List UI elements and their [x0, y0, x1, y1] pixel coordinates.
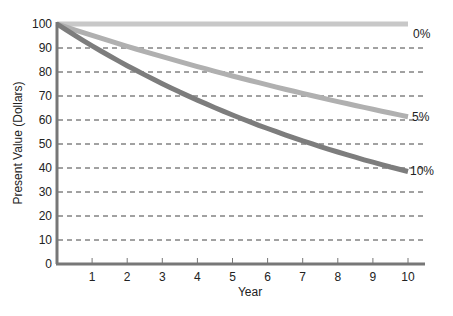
x-tick-label: 4: [194, 270, 201, 284]
series-label: 0%: [413, 27, 431, 41]
present-value-chart: 0102030405060708090100 12345678910 0%5%1…: [0, 0, 453, 316]
y-tick-label: 20: [39, 209, 53, 223]
y-tick-label: 100: [32, 17, 52, 31]
x-tick-label: 7: [299, 270, 306, 284]
series-label: 5%: [412, 110, 430, 124]
x-tick-label: 10: [401, 270, 415, 284]
y-tick-label: 0: [45, 257, 52, 271]
data-series: [57, 24, 408, 172]
x-tick-label: 9: [370, 270, 377, 284]
x-tick-label: 8: [334, 270, 341, 284]
x-tick-label: 1: [89, 270, 96, 284]
x-tick-label: 6: [264, 270, 271, 284]
series-label: 10%: [410, 164, 434, 178]
y-tick-labels: 0102030405060708090100: [32, 17, 52, 271]
series-line-5pct: [57, 24, 408, 117]
x-tick-label: 5: [229, 270, 236, 284]
x-tick-label: 3: [159, 270, 166, 284]
y-tick-label: 50: [39, 137, 53, 151]
y-tick-label: 90: [39, 41, 53, 55]
x-tick-labels: 12345678910: [89, 258, 415, 284]
y-tick-label: 40: [39, 161, 53, 175]
x-tick-label: 2: [124, 270, 131, 284]
y-tick-label: 60: [39, 113, 53, 127]
y-tick-label: 10: [39, 233, 53, 247]
x-axis-label: Year: [238, 285, 262, 299]
series-line-10pct: [57, 24, 408, 172]
y-tick-label: 70: [39, 89, 53, 103]
series-labels: 0%5%10%: [410, 27, 434, 178]
y-tick-label: 80: [39, 65, 53, 79]
y-tick-label: 30: [39, 185, 53, 199]
y-axis-label: Present Value (Dollars): [11, 81, 25, 204]
